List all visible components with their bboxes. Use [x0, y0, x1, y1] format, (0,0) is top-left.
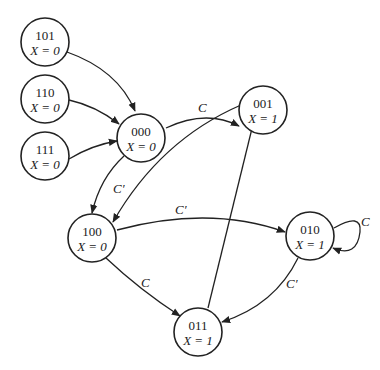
svg-text:010: 010 — [300, 222, 320, 237]
svg-text:X = 0: X = 0 — [125, 139, 156, 154]
svg-text:000: 000 — [131, 124, 151, 139]
state-node-010: 010 X = 1 — [286, 212, 334, 260]
svg-text:X = 0: X = 0 — [29, 43, 60, 58]
label-100-011: C — [141, 275, 150, 290]
edge-100-010 — [117, 218, 285, 232]
state-node-011: 011 X = 1 — [174, 308, 222, 356]
state-diagram: C C′ C′ C C C′ 101 X = 0 110 X = 0 111 X… — [0, 0, 380, 370]
state-node-101: 101 X = 0 — [21, 18, 69, 66]
label-010-self: C — [361, 214, 370, 229]
svg-text:100: 100 — [82, 224, 102, 239]
state-node-000: 000 X = 0 — [117, 114, 165, 162]
edge-000-001-visible — [166, 118, 239, 128]
label-100-010: C′ — [175, 202, 187, 217]
svg-text:X = 0: X = 0 — [76, 239, 107, 254]
svg-text:011: 011 — [188, 318, 207, 333]
edge-010-self — [333, 221, 360, 251]
edge-110-000 — [69, 100, 119, 124]
svg-text:X = 1: X = 1 — [294, 237, 325, 252]
svg-text:111: 111 — [36, 142, 55, 157]
state-node-110: 110 X = 0 — [21, 75, 69, 123]
label-000-100: C′ — [113, 181, 125, 196]
state-node-111: 111 X = 0 — [21, 132, 69, 180]
state-node-001: 001 X = 1 — [239, 86, 287, 134]
label-000-001: C — [198, 100, 207, 115]
state-node-100: 100 X = 0 — [68, 214, 116, 262]
edges — [67, 52, 360, 322]
edge-011-001 — [208, 112, 256, 308]
svg-text:001: 001 — [253, 96, 273, 111]
edge-111-000 — [69, 141, 117, 159]
svg-text:X = 1: X = 1 — [182, 333, 213, 348]
label-010-011: C′ — [286, 276, 298, 291]
svg-text:X = 0: X = 0 — [29, 100, 60, 115]
svg-text:X = 1: X = 1 — [247, 111, 278, 126]
svg-text:X = 0: X = 0 — [29, 157, 60, 172]
svg-text:110: 110 — [35, 85, 54, 100]
svg-text:101: 101 — [35, 28, 55, 43]
